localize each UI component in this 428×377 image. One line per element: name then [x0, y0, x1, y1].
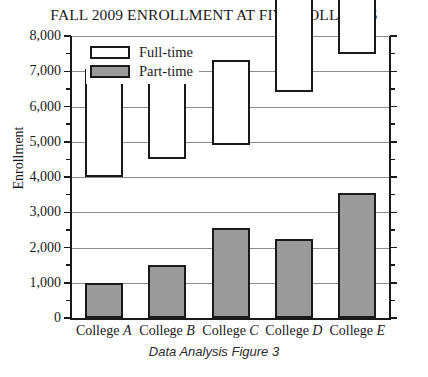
x-axis-tick-label: College D	[265, 323, 322, 339]
figure-caption: Data Analysis Figure 3	[0, 344, 428, 359]
enrollment-bar-chart-figure: FALL 2009 ENROLLMENT AT FIVE COLLEGES En…	[0, 0, 428, 377]
y-axis-right-spine	[389, 36, 391, 318]
y-axis-tick-right	[390, 71, 397, 73]
y-axis-tick-right	[390, 141, 397, 143]
y-axis-tick-label: 5,000	[30, 134, 62, 150]
bar-segment-part-time[interactable]	[275, 239, 313, 318]
bar-segment-full-time[interactable]	[275, 0, 313, 92]
y-axis-tick-label: 6,000	[30, 99, 62, 115]
bar-segment-full-time[interactable]	[85, 69, 123, 177]
legend-swatch-part-time-icon	[90, 65, 130, 78]
bar-segment-full-time[interactable]	[338, 0, 376, 54]
x-axis-tick-label: College E	[329, 323, 385, 339]
plot-area: 01,0002,0003,0004,0005,0006,0007,0008,00…	[72, 36, 389, 318]
y-axis-tick-label: 2,000	[30, 240, 62, 256]
y-axis-tick-label: 3,000	[30, 204, 62, 220]
x-axis-tick-label: College B	[139, 323, 195, 339]
x-axis-tick-label: College C	[202, 323, 258, 339]
y-axis-tick-label: 8,000	[30, 28, 62, 44]
y-axis-tick-right	[390, 106, 397, 108]
y-axis-tick-right	[390, 282, 397, 284]
bar-segment-full-time[interactable]	[212, 60, 250, 145]
x-axis-tick-label: College A	[76, 323, 132, 339]
legend-label-part-time: Part-time	[139, 63, 193, 80]
bar-segment-part-time[interactable]	[148, 265, 186, 318]
bar-group[interactable]	[338, 36, 376, 318]
bar-segment-part-time[interactable]	[212, 228, 250, 318]
bar-group[interactable]	[275, 36, 313, 318]
bar-segment-part-time[interactable]	[85, 283, 123, 318]
y-axis-tick-right	[390, 317, 397, 319]
y-axis-tick-right	[390, 212, 397, 214]
legend-item-part-time: Part-time	[90, 62, 193, 81]
legend-item-full-time: Full-time	[90, 43, 193, 62]
y-axis-tick-right	[390, 247, 397, 249]
y-axis-tick-label: 7,000	[30, 63, 62, 79]
y-axis-title: Enrollment	[11, 108, 27, 208]
bar-segment-part-time[interactable]	[338, 193, 376, 318]
y-axis-tick-label: 4,000	[30, 169, 62, 185]
y-axis-tick-label: 0	[54, 310, 61, 326]
y-axis-tick-right	[390, 176, 397, 178]
y-axis-tick-label: 1,000	[30, 275, 62, 291]
chart-legend: Full-time Part-time	[86, 41, 199, 84]
legend-label-full-time: Full-time	[139, 44, 193, 61]
x-axis-spine	[70, 318, 391, 320]
legend-swatch-full-time-icon	[90, 46, 130, 59]
y-axis-tick-right	[390, 35, 397, 37]
bar-group[interactable]	[212, 36, 250, 318]
